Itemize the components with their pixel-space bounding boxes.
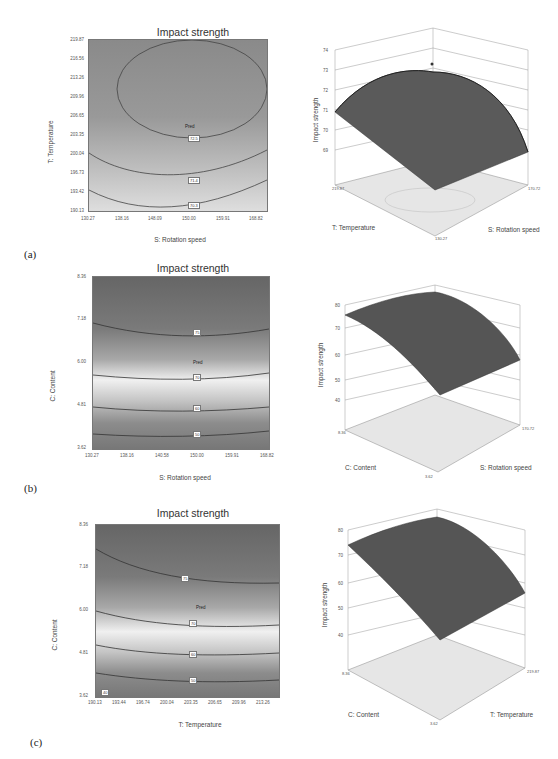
svg-text:T: Temperature: T: Temperature xyxy=(490,711,534,719)
contour-label: 60 xyxy=(193,405,201,412)
svg-text:T: Temperature: T: Temperature xyxy=(332,224,376,232)
y-tick: 4.81 xyxy=(62,650,88,655)
x-tick: 168.82 xyxy=(252,453,282,458)
svg-text:S: Rotation speed: S: Rotation speed xyxy=(488,226,540,234)
svg-text:8.36: 8.36 xyxy=(342,671,351,676)
surface-plot-b: 80 70 60 50 40 Impact strength 8.36 3.62… xyxy=(280,260,558,500)
y-tick: 213.26 xyxy=(58,75,84,80)
contour-label: 50 xyxy=(189,677,197,684)
y-tick: 193.42 xyxy=(58,189,84,194)
prediction-marker: Pred xyxy=(185,124,195,129)
svg-text:219.87: 219.87 xyxy=(332,186,345,191)
svg-text:70: 70 xyxy=(323,128,329,133)
svg-text:80: 80 xyxy=(338,528,344,533)
svg-text:74: 74 xyxy=(323,48,329,53)
svg-text:C: Content: C: Content xyxy=(345,464,376,471)
x-tick: 138.16 xyxy=(112,453,142,458)
svg-text:60: 60 xyxy=(335,353,341,358)
response-surface xyxy=(345,292,520,395)
svg-text:170.72: 170.72 xyxy=(528,186,541,191)
y-tick: 203.35 xyxy=(58,132,84,137)
response-surface xyxy=(335,71,528,190)
svg-text:71: 71 xyxy=(323,108,329,113)
x-axis-label: S: Rotation speed xyxy=(120,236,240,243)
x-tick: 130.27 xyxy=(77,453,107,458)
y-tick: 3.62 xyxy=(60,445,86,450)
contour-label: 70 xyxy=(189,620,197,627)
x-tick: 159.91 xyxy=(217,453,247,458)
plot-area: Pred 75 70 60 50 40 xyxy=(95,524,280,698)
contour-label: 70.3 xyxy=(188,202,200,209)
svg-text:70: 70 xyxy=(335,326,341,331)
contour-label: 72.5 xyxy=(188,135,200,142)
svg-text:40: 40 xyxy=(338,633,344,638)
svg-text:80: 80 xyxy=(335,303,341,308)
y-axis-label: C: Content xyxy=(49,322,56,402)
svg-text:40: 40 xyxy=(335,398,341,403)
x-tick: 140.58 xyxy=(147,453,177,458)
contour-label: 40 xyxy=(101,689,109,696)
x-tick: 138.16 xyxy=(107,216,137,221)
svg-text:69: 69 xyxy=(323,148,329,153)
y-tick: 216.56 xyxy=(58,56,84,61)
x-tick: 159.91 xyxy=(208,216,238,221)
surface-plot-a: 74 73 72 71 70 69 Impact strength 219.87… xyxy=(280,0,558,240)
y-tick: 196.73 xyxy=(58,170,84,175)
svg-text:50: 50 xyxy=(335,378,341,383)
svg-text:130.27: 130.27 xyxy=(435,236,448,240)
y-tick: 3.62 xyxy=(62,693,88,698)
svg-text:3.62: 3.62 xyxy=(425,474,434,479)
svg-text:50: 50 xyxy=(338,606,344,611)
contour-label: 71.4 xyxy=(188,177,200,184)
panel-label-b: (b) xyxy=(24,482,37,494)
base-plane xyxy=(345,395,520,472)
svg-text:170.72: 170.72 xyxy=(522,426,535,431)
y-tick: 4.81 xyxy=(60,402,86,407)
y-tick: 6.00 xyxy=(62,607,88,612)
contour-plot-a: Impact strength Pred 72.5 71.4 70.3 219.… xyxy=(0,0,280,240)
x-tick: 213.26 xyxy=(248,700,278,705)
surface-plot-c: 80 70 60 50 40 Impact strength 8.36 3.62… xyxy=(280,495,558,735)
contour-label: 50 xyxy=(193,431,201,438)
x-axis-label: T: Temperature xyxy=(140,721,260,728)
contour-lines xyxy=(96,525,279,697)
svg-text:3.62: 3.62 xyxy=(430,721,439,726)
x-axis-label: S: Rotation speed xyxy=(125,474,245,481)
contour-lines xyxy=(89,40,267,211)
y-tick: 200.04 xyxy=(58,151,84,156)
plot-area: Pred 75 70 60 50 xyxy=(92,276,270,450)
contour-label: 60 xyxy=(189,651,197,658)
contour-plot-c: Impact strength Pred 75 70 60 50 40 8.36… xyxy=(0,495,280,735)
x-tick: 148.09 xyxy=(140,216,170,221)
y-tick: 8.36 xyxy=(62,522,88,527)
contour-plot-b: Impact strength Pred 75 70 60 50 8.36 7.… xyxy=(0,250,280,490)
svg-text:60: 60 xyxy=(338,581,344,586)
svg-text:Impact strength: Impact strength xyxy=(321,582,329,627)
y-tick: 7.18 xyxy=(62,564,88,569)
y-tick: 7.18 xyxy=(60,316,86,321)
svg-text:C: Content: C: Content xyxy=(348,711,379,718)
contour-label: 70 xyxy=(193,374,201,381)
base-plane xyxy=(348,635,525,720)
y-tick: 209.96 xyxy=(58,94,84,99)
response-surface xyxy=(348,517,525,640)
svg-text:Impact strength: Impact strength xyxy=(317,342,325,387)
svg-text:Impact strength: Impact strength xyxy=(312,97,320,142)
y-tick: 190.13 xyxy=(58,208,84,213)
prediction-marker: Pred xyxy=(196,605,206,610)
svg-text:S: Rotation speed: S: Rotation speed xyxy=(480,464,532,472)
svg-text:219.87: 219.87 xyxy=(527,669,540,674)
svg-text:73: 73 xyxy=(323,68,329,73)
x-tick: 168.82 xyxy=(241,216,271,221)
plot-area: Pred 72.5 71.4 70.3 xyxy=(88,39,268,212)
contour-lines xyxy=(93,277,269,449)
y-tick: 206.65 xyxy=(58,113,84,118)
y-tick: 6.00 xyxy=(60,359,86,364)
x-tick: 150.00 xyxy=(174,216,204,221)
y-tick: 8.36 xyxy=(60,274,86,279)
svg-text:72: 72 xyxy=(323,88,329,93)
panel-label-c: (c) xyxy=(30,736,42,748)
y-tick: 219.87 xyxy=(58,37,84,42)
prediction-marker: Pred xyxy=(193,360,203,365)
contour-label: 75 xyxy=(193,329,201,336)
